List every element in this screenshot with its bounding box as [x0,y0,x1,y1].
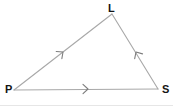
vertex-label-S: S [162,84,169,95]
geometry-figure-triangle-pls: L P S [0,0,173,107]
side-LS-arrow-icon [132,50,142,59]
triangle-diagram-canvas [0,0,173,107]
vertex-label-L: L [108,3,115,14]
side-LS-line [112,14,158,89]
vertex-label-P: P [5,84,12,95]
side-PS-line [14,89,158,90]
